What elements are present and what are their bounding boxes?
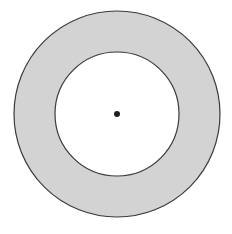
center-point: [114, 111, 120, 117]
annulus-diagram: [0, 0, 232, 234]
